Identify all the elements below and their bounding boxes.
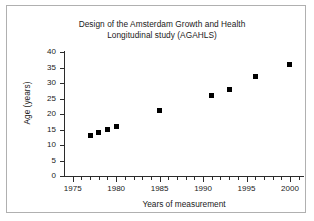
y-tick-label: 0: [34, 172, 56, 180]
y-tick-label: 5: [34, 157, 56, 165]
y-tick-label: 20: [34, 110, 56, 118]
x-tick-minor: [134, 177, 135, 180]
x-tick-minor: [238, 177, 239, 180]
x-tick-minor: [168, 177, 169, 180]
data-point: [96, 130, 101, 135]
data-point: [157, 108, 162, 113]
chart-title-line-2: Longitudinal study (AGAHLS): [37, 30, 287, 41]
data-point: [227, 87, 232, 92]
y-tick-label: 25: [34, 95, 56, 103]
y-tick: [60, 176, 64, 177]
y-tick-label: 10: [34, 141, 56, 149]
x-tick-label: 1975: [58, 184, 88, 193]
y-tick-label: 30: [34, 79, 56, 87]
x-tick-minor: [273, 177, 274, 180]
x-tick-minor: [186, 177, 187, 180]
data-point: [209, 93, 214, 98]
x-tick-major: [203, 177, 204, 182]
y-tick-label: 15: [34, 126, 56, 134]
x-tick-label: 1990: [188, 184, 218, 193]
x-tick-label: 2000: [275, 184, 305, 193]
x-tick-minor: [220, 177, 221, 180]
chart-title: Design of the Amsterdam Growth and Healt…: [37, 19, 287, 41]
x-tick-minor: [212, 177, 213, 180]
x-tick-minor: [151, 177, 152, 180]
plot-area: [64, 52, 303, 176]
x-tick-minor: [90, 177, 91, 180]
y-tick-label: 40: [34, 48, 56, 56]
chart-title-line-1: Design of the Amsterdam Growth and Healt…: [37, 19, 287, 30]
x-tick-minor: [142, 177, 143, 180]
x-tick-label: 1995: [232, 184, 262, 193]
x-tick-major: [290, 177, 291, 182]
data-point: [114, 124, 119, 129]
x-tick-minor: [125, 177, 126, 180]
x-tick-major: [247, 177, 248, 182]
x-tick-label: 1980: [101, 184, 131, 193]
x-tick-major: [116, 177, 117, 182]
data-point: [287, 62, 292, 67]
x-tick-minor: [229, 177, 230, 180]
x-axis-line: [64, 176, 304, 177]
x-tick-minor: [281, 177, 282, 180]
x-tick-label: 1985: [145, 184, 175, 193]
x-tick-minor: [299, 177, 300, 180]
x-tick-minor: [177, 177, 178, 180]
x-tick-minor: [264, 177, 265, 180]
x-tick-major: [73, 177, 74, 182]
x-tick-minor: [81, 177, 82, 180]
data-point: [105, 127, 110, 132]
x-tick-minor: [194, 177, 195, 180]
chart-figure: Design of the Amsterdam Growth and Healt…: [0, 0, 314, 221]
data-point: [253, 74, 258, 79]
y-tick-label: 35: [34, 64, 56, 72]
x-tick-minor: [107, 177, 108, 180]
x-tick-minor: [255, 177, 256, 180]
x-tick-major: [160, 177, 161, 182]
chart-frame: Design of the Amsterdam Growth and Healt…: [6, 5, 306, 213]
y-axis-label: Age (years): [22, 63, 32, 143]
data-point: [88, 133, 93, 138]
x-tick-minor: [99, 177, 100, 180]
x-axis-label: Years of measurement: [64, 199, 304, 209]
